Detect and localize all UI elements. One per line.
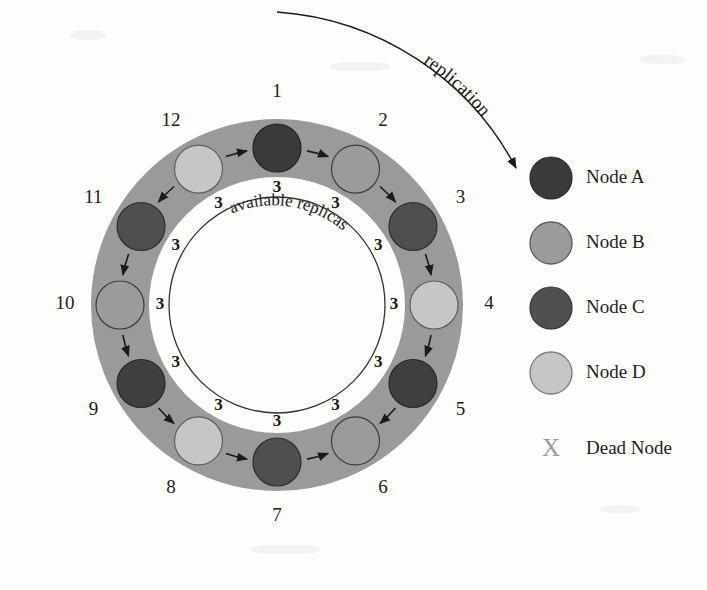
replica-count-9: 3 (156, 294, 165, 313)
legend-swatch-node-c (530, 287, 572, 329)
legend-label-node-a: Node A (586, 166, 645, 187)
replica-count-3: 3 (390, 294, 399, 313)
position-label-4: 4 (484, 292, 494, 313)
replica-count-4: 3 (374, 352, 383, 371)
ring-node-11[interactable] (117, 203, 165, 251)
legend-item-node-a[interactable]: Node A (530, 157, 645, 199)
ring-node-8[interactable] (175, 417, 223, 465)
replica-count-1: 3 (331, 193, 340, 212)
ring-node-10[interactable] (96, 281, 144, 329)
position-label-10: 10 (56, 292, 75, 313)
legend-item-dead-node[interactable]: X Dead Node (542, 434, 672, 461)
legend-item-node-c[interactable]: Node C (530, 287, 645, 329)
hash-ring-diagram: available replicas replication (0, 0, 707, 590)
legend-label-node-d: Node D (586, 361, 646, 382)
ring-node-6[interactable] (332, 417, 380, 465)
position-label-7: 7 (272, 504, 282, 525)
legend-label-dead-node: Dead Node (586, 437, 672, 458)
legend-label-node-c: Node C (586, 296, 645, 317)
replica-count-7: 3 (214, 395, 223, 414)
replica-count-0: 3 (273, 177, 282, 196)
position-label-5: 5 (456, 398, 466, 419)
ring-node-5[interactable] (389, 360, 437, 408)
position-label-11: 11 (84, 186, 102, 207)
diagram-canvas: available replicas replication (0, 0, 707, 590)
legend-swatch-node-d (530, 352, 572, 394)
legend-label-node-b: Node B (586, 231, 645, 252)
replica-count-6: 3 (273, 411, 282, 430)
position-label-1: 1 (272, 80, 282, 101)
ring-node-1[interactable] (253, 124, 301, 172)
legend-item-node-d[interactable]: Node D (530, 352, 646, 394)
ring-node-4[interactable] (410, 281, 458, 329)
position-label-6: 6 (378, 476, 388, 497)
position-label-9: 9 (89, 398, 99, 419)
ring-node-9[interactable] (117, 360, 165, 408)
legend-swatch-node-a (530, 157, 572, 199)
replica-count-labels: 3 3 3 3 3 3 3 3 3 3 3 3 (156, 177, 399, 430)
position-label-12: 12 (162, 109, 181, 130)
replica-count-8: 3 (171, 352, 180, 371)
position-label-3: 3 (456, 186, 466, 207)
ring-node-12[interactable] (175, 145, 223, 193)
ring-node-2[interactable] (332, 145, 380, 193)
legend: Node A Node B Node C Node D X Dead Node (530, 157, 672, 461)
legend-swatch-node-b (530, 222, 572, 264)
position-label-2: 2 (378, 109, 388, 130)
replica-count-2: 3 (374, 235, 383, 254)
dead-node-x-icon: X (542, 434, 560, 461)
position-label-8: 8 (166, 476, 176, 497)
replication-label: replication (420, 49, 495, 121)
available-replicas-circle (169, 197, 385, 413)
ring-node-3[interactable] (389, 203, 437, 251)
replica-count-11: 3 (214, 193, 223, 212)
replica-count-10: 3 (171, 235, 180, 254)
replica-count-5: 3 (331, 395, 340, 414)
legend-item-node-b[interactable]: Node B (530, 222, 645, 264)
ring-node-7[interactable] (253, 438, 301, 486)
